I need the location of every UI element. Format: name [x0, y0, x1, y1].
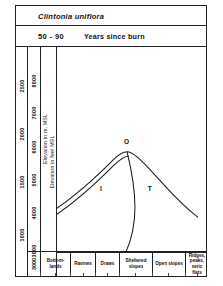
y-axis-title-meters: Elevation in m. MSL — [42, 114, 48, 164]
y-axis-feet-ticks: 8000 7000 6000 5000 4000 3000 — [27, 47, 40, 276]
y-tick-meters-2500: 2500 — [19, 80, 25, 93]
period-label: 50 - 90 — [38, 32, 64, 41]
page-title: Clintonia uniflora — [38, 11, 104, 20]
figure-panel: Clintonia uniflora 50 - 90 Years since b… — [15, 5, 207, 277]
distribution-curves — [56, 47, 206, 252]
y-axis-meters-ticks: 2500 2000 1500 1000 — [16, 47, 27, 276]
curve-inner — [56, 156, 129, 217]
y-axis-title-feet: Elevation in feet MSL — [49, 135, 55, 188]
curve-outer — [56, 152, 198, 218]
y-tick-feet-5000: 5000 — [31, 173, 37, 186]
curve-descending-limb — [125, 152, 135, 252]
plot-area: O I T — [56, 47, 206, 252]
period-caption: Years since burn — [84, 32, 145, 41]
y-tick-feet-6000: 6000 — [31, 140, 37, 153]
subtitle-band: 50 - 90 Years since burn — [15, 25, 207, 47]
y-tick-meters-1500: 1500 — [19, 176, 25, 189]
x-tick-feet-3000: 3000 — [31, 258, 37, 270]
zone-label-o: O — [124, 138, 129, 145]
title-band: Clintonia uniflora — [15, 5, 207, 26]
y-axis-titles: Elevation in m. MSL Elevation in feet MS… — [40, 47, 56, 276]
y-tick-meters-1000: 1000 — [19, 228, 25, 241]
y-tick-feet-8000: 8000 — [31, 75, 37, 88]
zone-label-i: I — [100, 185, 102, 192]
x-axis-categories: 3000 Bottom-lands Ravines Draws Sheltere… — [27, 251, 206, 276]
y-tick-meters-2000: 2000 — [19, 128, 25, 141]
zone-label-t: T — [148, 185, 152, 192]
y-tick-feet-7000: 7000 — [31, 107, 37, 120]
y-tick-feet-4000: 4000 — [31, 207, 37, 220]
chart-body: 2500 2000 1500 1000 8000 7000 6000 5000 … — [15, 46, 207, 277]
